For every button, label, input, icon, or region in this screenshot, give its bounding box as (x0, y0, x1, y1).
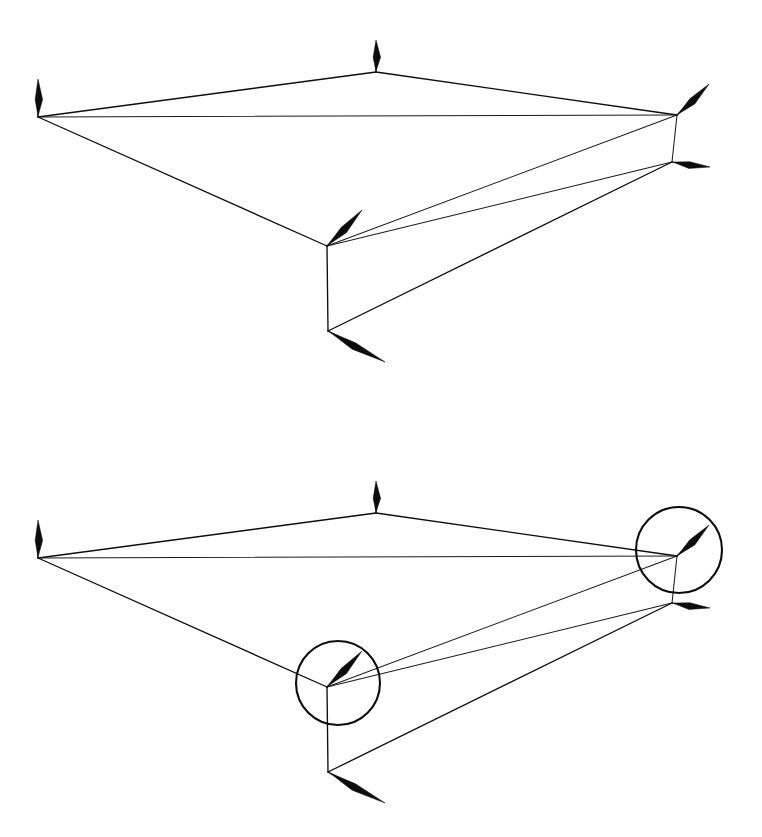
figure-root (0, 0, 762, 837)
technical-diagram-canvas (0, 0, 762, 837)
